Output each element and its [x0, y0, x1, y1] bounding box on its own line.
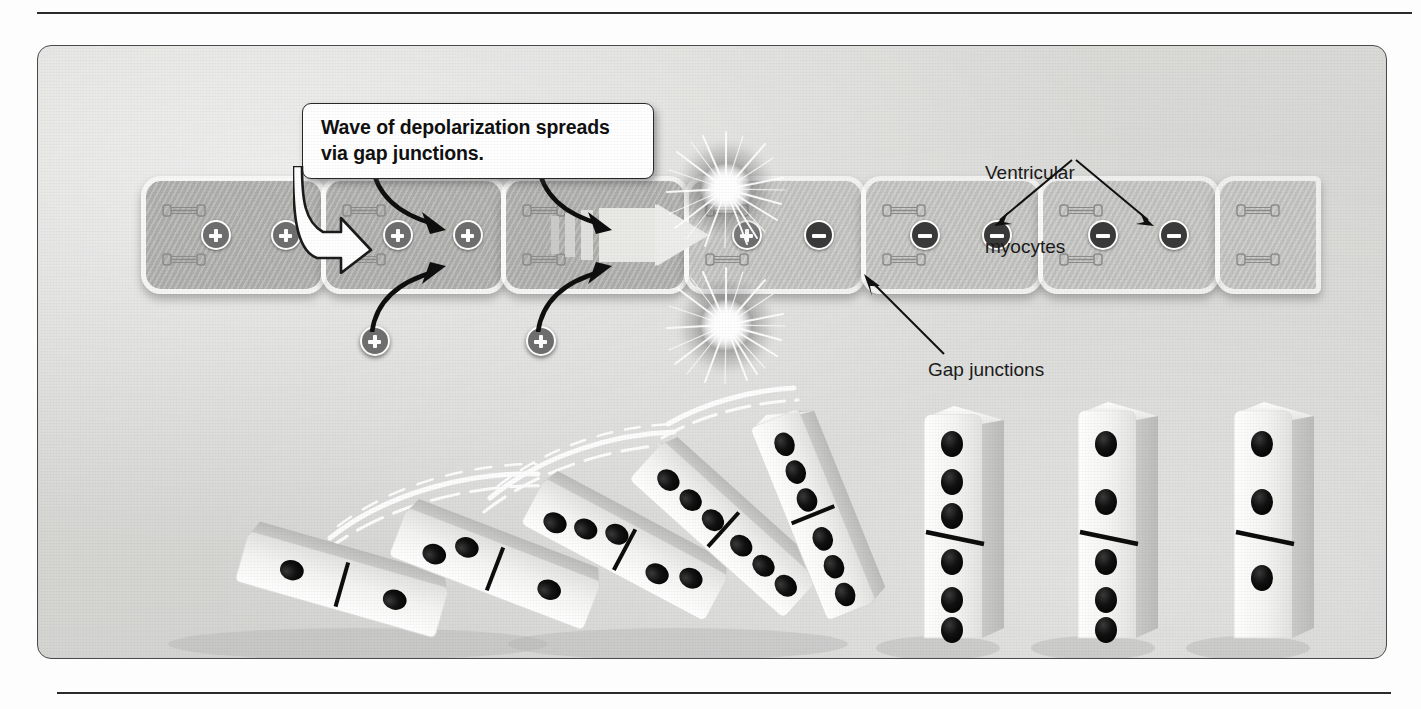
myocyte-cell-3	[501, 176, 689, 294]
myocyte-cell-4	[684, 176, 866, 294]
ventricular-myocytes-label-line2: myocytes	[985, 235, 1075, 260]
cell-membrane	[501, 176, 689, 294]
plus-charge-icon	[201, 220, 231, 250]
cell-membrane	[684, 176, 866, 294]
callout-line-1: Wave of depolarization spreads	[321, 115, 638, 141]
free-plus-charge-icon	[360, 326, 390, 356]
plus-charge-icon	[732, 220, 762, 250]
ventricular-myocytes-label-line1: Ventricular	[985, 161, 1075, 186]
minus-charge-icon	[1159, 220, 1189, 250]
callout-line-2: via gap junctions.	[321, 141, 638, 167]
callout-pointer-arrow-icon	[293, 166, 403, 274]
free-plus-charge-icon	[526, 326, 556, 356]
figure-panel: Wave of depolarization spreads via gap j…	[37, 45, 1387, 659]
cell-membrane	[1215, 176, 1321, 294]
domino-8	[1234, 402, 1314, 638]
ventricular-myocytes-label: Ventricular myocytes	[985, 112, 1075, 310]
figure-page: Wave of depolarization spreads via gap j…	[0, 0, 1421, 709]
myocyte-cell-7	[1215, 176, 1321, 294]
minus-charge-icon	[1088, 220, 1118, 250]
minus-charge-icon	[910, 220, 940, 250]
domino-chain	[38, 376, 1386, 658]
top-rule	[37, 12, 1412, 14]
domino-6	[924, 406, 1004, 643]
domino-7	[1078, 402, 1158, 643]
minus-charge-icon	[804, 220, 834, 250]
plus-charge-icon	[453, 220, 483, 250]
bottom-rule	[57, 692, 1391, 694]
